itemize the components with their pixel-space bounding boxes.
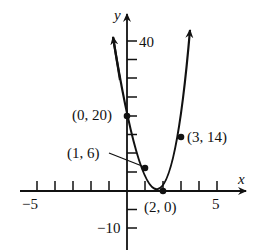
tick-label-neg5: −5	[22, 196, 38, 212]
label-point-0-20: (0, 20)	[72, 107, 112, 124]
tick-label-40: 40	[139, 34, 154, 50]
label-point-1-6: (1, 6)	[67, 145, 100, 162]
chart: y x 40 −10 −5 5 (0, 20) (1, 6) (2, 0) (3…	[0, 0, 266, 250]
tick-label-5: 5	[212, 196, 220, 212]
point-1-6	[142, 165, 149, 172]
parabola-curve	[113, 30, 190, 189]
point-0-20	[124, 113, 131, 120]
label-point-3-14: (3, 14)	[187, 129, 227, 146]
point-3-14	[178, 134, 185, 141]
y-axis-label: y	[112, 7, 121, 23]
x-axis-label: x	[237, 171, 245, 187]
label-point-2-0: (2, 0)	[144, 199, 177, 216]
point-2-0	[160, 188, 167, 195]
tick-label-neg10: −10	[97, 220, 120, 236]
